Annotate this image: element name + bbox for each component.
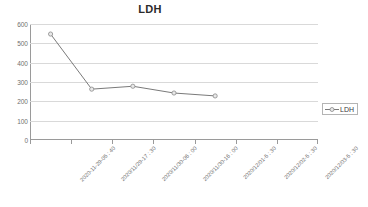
x-axis-tick bbox=[317, 140, 318, 144]
data-point-marker bbox=[213, 94, 217, 98]
x-tick-label: 2020/12/01-5 : 30 bbox=[242, 145, 278, 181]
legend-marker-icon bbox=[325, 105, 339, 114]
x-tick-label: 2020/11/29-17 : 30 bbox=[119, 145, 157, 183]
x-tick-label: 2020/12/02-5 : 30 bbox=[283, 145, 319, 181]
y-axis-tick-labels: 6005004003002001000 bbox=[0, 24, 28, 140]
data-point-marker bbox=[48, 32, 52, 36]
plot-area bbox=[30, 24, 318, 140]
chart-title: LDH bbox=[0, 2, 300, 16]
y-tick-label: 300 bbox=[2, 79, 28, 86]
x-tick-label: 2020/12/03-5 : 30 bbox=[324, 145, 360, 181]
x-axis-tick bbox=[195, 140, 196, 144]
y-tick-label: 0 bbox=[2, 137, 28, 144]
y-tick-label: 200 bbox=[2, 98, 28, 105]
data-point-marker bbox=[131, 84, 135, 88]
x-axis-tick bbox=[71, 140, 72, 144]
x-axis-tick bbox=[30, 140, 31, 144]
chart-container: LDH 6005004003002001000 2020-11-29-05 : … bbox=[0, 0, 368, 207]
x-axis-tick bbox=[236, 140, 237, 144]
x-tick-label: 2020/11/30-06 : 00 bbox=[160, 145, 198, 183]
x-axis-tick bbox=[112, 140, 113, 144]
x-axis-tick bbox=[277, 140, 278, 144]
x-tick-label: 2020-11-29-05 : 40 bbox=[78, 145, 116, 183]
x-axis-tick-labels: 2020-11-29-05 : 402020/11/29-17 : 302020… bbox=[30, 145, 318, 205]
data-point-marker bbox=[172, 91, 176, 95]
y-tick-label: 400 bbox=[2, 59, 28, 66]
legend-label-ldh: LDH bbox=[340, 105, 354, 114]
y-tick-label: 600 bbox=[2, 21, 28, 28]
legend[interactable]: LDH bbox=[322, 103, 358, 115]
y-tick-label: 500 bbox=[2, 40, 28, 47]
x-axis-tick bbox=[153, 140, 154, 144]
series-line-ldh bbox=[30, 24, 318, 140]
data-point-marker bbox=[90, 87, 94, 91]
y-tick-label: 100 bbox=[2, 117, 28, 124]
x-tick-label: 2020/11/30-16 : 00 bbox=[202, 145, 240, 183]
